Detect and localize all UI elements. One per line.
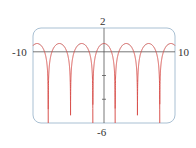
x-min-label: -10: [12, 47, 27, 58]
y-max-label: 2: [100, 16, 106, 27]
x-max-label: 10: [178, 47, 189, 58]
y-min-label: -6: [97, 127, 106, 138]
